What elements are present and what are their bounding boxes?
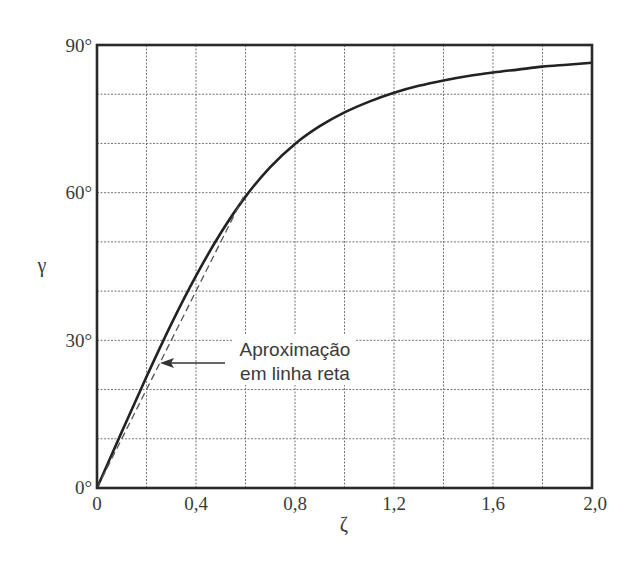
y-tick-label-0: 0° — [75, 477, 92, 498]
annotation-arrow-icon — [160, 358, 225, 368]
x-axis-label: ζ — [340, 513, 348, 536]
annotation-line-2: em linha reta — [240, 363, 350, 384]
y-tick-label-60: 60° — [65, 182, 92, 203]
x-tick-label-0: 0 — [92, 493, 102, 514]
x-tick-label-0-4: 0,4 — [184, 493, 208, 514]
annotation-line-1: Aproximação — [240, 339, 351, 360]
y-tick-label-90: 90° — [65, 35, 92, 56]
phase-margin-chart: 90° 60° 30° 0° 0 0,4 0,8 1,2 1,6 2,0 ζ γ… — [0, 0, 633, 565]
x-tick-label-1-6: 1,6 — [481, 493, 505, 514]
x-tick-label-0-8: 0,8 — [283, 493, 307, 514]
y-axis-label: γ — [37, 254, 47, 277]
y-tick-label-30: 30° — [65, 330, 92, 351]
x-tick-label-1-2: 1,2 — [382, 493, 406, 514]
x-tick-label-2-0: 2,0 — [583, 493, 607, 514]
